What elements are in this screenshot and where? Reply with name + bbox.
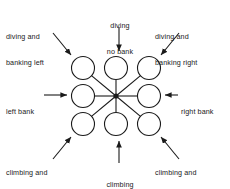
left-bank-node (72, 85, 95, 108)
arrow-diving-and-banking-left (53, 33, 71, 55)
label-line-2: banking right (155, 59, 197, 68)
label-line-1: left bank (6, 108, 34, 117)
attitude-diagram: diving and banking left diving no bank d… (0, 0, 230, 189)
climbing-and-banking-right-node (138, 113, 161, 136)
label-line-2: no bank (98, 48, 142, 57)
climbing-and-banking-left-node (72, 113, 95, 136)
label-diving-and-banking-right: diving and banking right (155, 16, 197, 85)
label-line-1: climbing and (6, 169, 48, 178)
hub-center-dot (113, 93, 118, 98)
label-climbing-no-bank: climbing no bank (98, 164, 142, 189)
label-climbing-and-banking-left: climbing and banking left (6, 152, 48, 189)
label-right-bank: right bank (181, 91, 214, 134)
label-line-1: climbing (98, 181, 142, 189)
label-line-1: climbing and (155, 169, 197, 178)
climbing-no-bank-node (105, 113, 128, 136)
label-line-1: diving and (6, 33, 44, 42)
label-diving-no-bank: diving no bank (98, 5, 142, 74)
right-bank-node (138, 85, 161, 108)
label-line-2: banking left (6, 59, 44, 68)
label-line-1: right bank (181, 108, 214, 117)
label-left-bank: left bank (6, 91, 34, 134)
arrow-climbing-and-banking-left (53, 137, 71, 159)
label-diving-and-banking-left: diving and banking left (6, 16, 44, 85)
label-line-1: diving (98, 22, 142, 31)
label-climbing-and-banking-right: climbing and banking right (155, 152, 197, 189)
diving-and-banking-left-node (72, 57, 95, 80)
label-line-1: diving and (155, 33, 197, 42)
